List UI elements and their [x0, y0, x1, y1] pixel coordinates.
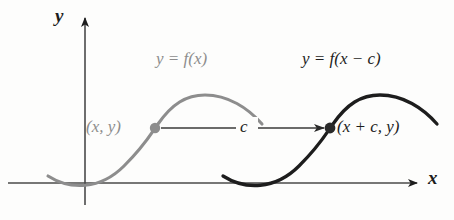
shifted-point-marker — [325, 123, 336, 134]
shifted-curve — [223, 95, 437, 185]
shifted-point-label: (x + c, y) — [337, 118, 399, 135]
original-point-marker — [150, 123, 160, 133]
original-curve-label: y = f(x) — [156, 50, 207, 67]
diagram-canvas — [0, 0, 454, 220]
original-point-label: (x, y) — [86, 118, 121, 135]
translation-diagram: y x y = f(x) y = f(x − c) (x, y) (x + c,… — [0, 0, 454, 220]
shift-amount-label: c — [240, 118, 248, 135]
original-curve — [48, 95, 262, 185]
shifted-curve-label: y = f(x − c) — [302, 50, 381, 67]
x-axis-label: x — [428, 168, 438, 187]
y-axis-label: y — [55, 6, 63, 25]
